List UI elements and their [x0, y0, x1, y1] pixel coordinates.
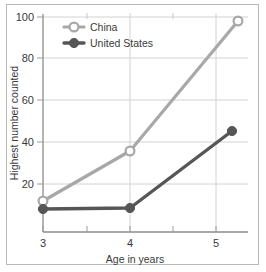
chart-figure: 100 80 60 40 20 3 4 5 Highest number cou…	[0, 0, 266, 272]
y-tick-marks	[37, 17, 43, 184]
y-tick-label-80: 80	[22, 52, 34, 64]
datapoint-china-age-5	[234, 17, 243, 26]
x-tick-label-3: 3	[40, 237, 46, 249]
legend-label-china: China	[90, 21, 118, 33]
datapoint-united-states-age-4	[125, 203, 134, 212]
y-tick-label-100: 100	[16, 11, 34, 23]
chart-legend: China United States	[64, 21, 153, 49]
x-tick-marks	[43, 226, 216, 232]
y-axis-title: Highest number counted	[8, 66, 20, 181]
y-tick-label-20: 20	[22, 178, 34, 190]
datapoint-china-age-4	[126, 147, 135, 156]
x-axis-title: Age in years	[106, 253, 164, 265]
legend-marker-china	[70, 23, 79, 32]
y-tick-label-60: 60	[22, 94, 34, 106]
y-tick-label-40: 40	[22, 136, 34, 148]
datapoint-united-states-age-5	[227, 126, 236, 135]
legend-item-china: China	[64, 21, 118, 33]
x-tick-label-5: 5	[213, 237, 219, 249]
legend-item-united-states: United States	[64, 37, 153, 49]
datapoint-united-states-age-3	[38, 204, 47, 213]
line-chart: 100 80 60 40 20 3 4 5 Highest number cou…	[0, 0, 266, 272]
legend-label-united-states: United States	[90, 37, 153, 49]
x-tick-labels: 3 4 5	[40, 237, 219, 249]
x-tick-label-4: 4	[127, 237, 133, 249]
legend-marker-united-states	[69, 38, 78, 47]
